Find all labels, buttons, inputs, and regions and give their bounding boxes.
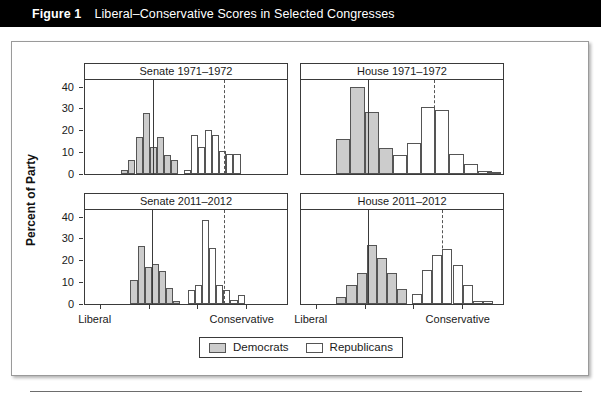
histogram-bar	[152, 264, 159, 304]
histogram-bar	[233, 154, 240, 174]
histogram-bar	[136, 137, 143, 174]
histogram-bar	[336, 139, 350, 174]
panel-plot-area	[84, 210, 288, 305]
y-axis-tick-mark	[79, 238, 83, 239]
plot-canvas: Percent of Party Senate 1971–1972House 1…	[12, 42, 588, 375]
y-axis-title: Percent of Party	[25, 145, 37, 255]
histogram-bar	[164, 155, 171, 174]
histogram-bar	[435, 110, 449, 174]
y-axis-tick-mark	[79, 152, 83, 153]
histogram-bar	[198, 147, 205, 174]
y-axis-tick-label: 30	[44, 103, 74, 114]
x-axis-label-conservative: Conservative	[210, 314, 274, 325]
histogram-bar	[184, 170, 191, 174]
histogram-bar	[397, 289, 407, 304]
x-axis-tick-mark	[100, 305, 101, 309]
histogram-bar	[464, 164, 478, 174]
democrat-median-line	[152, 210, 153, 304]
x-axis-label-conservative: Conservative	[426, 314, 490, 325]
y-axis-tick-label: 20	[44, 255, 74, 266]
histogram-bar	[393, 155, 407, 174]
histogram-bar	[205, 130, 212, 174]
y-axis-tick-mark	[79, 130, 83, 131]
legend-label-democrats: Democrats	[233, 342, 289, 354]
histogram-bar	[449, 154, 463, 174]
panel-senate-2011-2012: Senate 2011–2012	[84, 193, 288, 305]
histogram-bar	[209, 248, 216, 304]
x-axis-tick-mark	[197, 305, 198, 309]
histogram-bar	[216, 285, 223, 304]
histogram-bar	[188, 290, 195, 304]
panel-plot-area	[84, 80, 288, 175]
y-axis-tick-label: 40	[44, 212, 74, 223]
republican-median-line	[224, 210, 225, 304]
legend-swatch-democrats-icon	[209, 343, 226, 353]
histogram-bar	[230, 300, 237, 304]
panel-title-strip: Senate 2011–2012	[84, 193, 288, 210]
y-axis-tick-mark	[79, 217, 83, 218]
figure-container: Percent of Party Senate 1971–1972House 1…	[11, 41, 589, 376]
panel-plot-area	[300, 80, 504, 175]
y-axis-tick-mark	[79, 304, 83, 305]
histogram-bar	[195, 285, 202, 304]
y-axis-tick-mark	[79, 282, 83, 283]
panel-title-text: House 1971–1972	[357, 66, 447, 77]
histogram-bar	[159, 271, 166, 304]
histogram-bar	[143, 113, 150, 174]
histogram-bar	[202, 220, 209, 304]
histogram-bar	[463, 285, 473, 304]
democrat-median-line	[368, 80, 369, 174]
y-axis-tick-label: 20	[44, 125, 74, 136]
x-axis-tick-mark	[365, 305, 366, 309]
figure-caption-bar: Figure 1 Liberal–Conservative Scores in …	[0, 0, 601, 27]
histogram-bar	[487, 172, 501, 174]
histogram-bar	[473, 301, 483, 304]
y-axis-tick-label: 30	[44, 233, 74, 244]
panel-title-text: Senate 1971–1972	[140, 66, 233, 77]
histogram-bar	[483, 301, 493, 304]
legend-swatch-republicans-icon	[306, 343, 323, 353]
histogram-bar	[412, 294, 422, 304]
panel-title-strip: Senate 1971–1972	[84, 63, 288, 80]
panel-senate-1971-1972: Senate 1971–1972	[84, 63, 288, 175]
panel-house-1971-1972: House 1971–1972	[300, 63, 504, 175]
x-axis-tick-mark	[246, 305, 247, 309]
page-bottom-rule	[30, 391, 582, 392]
histogram-bar	[166, 288, 173, 304]
histogram-bar	[130, 280, 137, 304]
histogram-bar	[387, 273, 397, 304]
x-axis-tick-mark	[413, 305, 414, 309]
x-axis-tick-mark	[462, 305, 463, 309]
panel-title-text: House 2011–2012	[357, 196, 446, 207]
x-axis-tick-mark	[149, 305, 150, 309]
y-axis-tick-label: 10	[44, 147, 74, 158]
histogram-bar	[336, 297, 346, 304]
histogram-bar	[157, 137, 164, 174]
legend-entry-democrats: Democrats	[209, 342, 289, 354]
x-axis-label-liberal: Liberal	[294, 314, 327, 325]
figure-number-label: Figure 1	[32, 7, 81, 21]
x-axis-tick-mark	[316, 305, 317, 309]
histogram-bar	[121, 170, 128, 174]
histogram-bar	[432, 255, 442, 304]
histogram-bar	[173, 301, 180, 304]
histogram-bar	[226, 154, 233, 174]
histogram-bar	[191, 135, 198, 174]
histogram-bar	[128, 160, 135, 174]
legend-entry-republicans: Republicans	[306, 342, 393, 354]
democrat-median-line	[153, 80, 154, 174]
panel-house-2011-2012: House 2011–2012	[300, 193, 504, 305]
histogram-bar	[442, 249, 452, 304]
histogram-bar	[346, 285, 356, 304]
histogram-bar	[357, 273, 367, 304]
histogram-bar	[145, 267, 152, 304]
histogram-bar	[212, 135, 219, 174]
y-axis-tick-mark	[79, 260, 83, 261]
republican-median-line	[224, 80, 225, 174]
panel-title-strip: House 1971–1972	[300, 63, 504, 80]
y-axis-tick-label: 0	[44, 169, 74, 180]
democrat-median-line	[368, 210, 369, 304]
y-axis-tick-mark	[79, 87, 83, 88]
histogram-bar	[379, 148, 393, 174]
panel-title-text: Senate 2011–2012	[140, 196, 232, 207]
